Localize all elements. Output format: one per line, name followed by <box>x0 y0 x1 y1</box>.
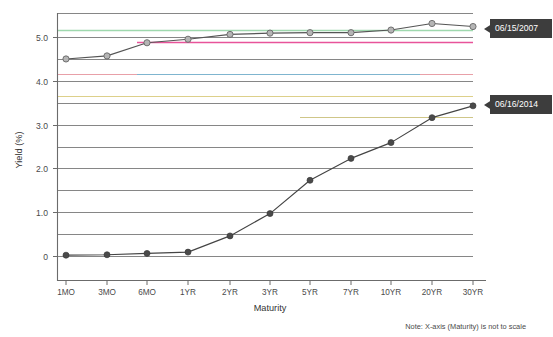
data-point-5YR[interactable] <box>307 30 313 36</box>
x-tick-label-3MO: 3MO <box>98 288 116 297</box>
yield-curve-chart: 5.0 4.0 3.0 2.0 1.0 0 Yield (%) 1MO 3MO … <box>0 0 553 337</box>
data-point-30YR[interactable] <box>470 103 476 109</box>
x-tick-label-1MO: 1MO <box>57 288 75 297</box>
data-point-1YR[interactable] <box>185 249 191 255</box>
chart-canvas: 5.0 4.0 3.0 2.0 1.0 0 Yield (%) 1MO 3MO … <box>0 0 553 337</box>
data-point-3YR[interactable] <box>267 30 273 36</box>
callout-label-2014: 06/16/2014 <box>495 99 538 109</box>
data-point-1MO[interactable] <box>63 56 69 62</box>
x-axis-tick-labels: 1MO 3MO 6MO 1YR 2YR 3YR 5YR 7YR 10YR 20Y… <box>57 288 483 297</box>
data-point-5YR[interactable] <box>307 177 313 183</box>
y-tick-label-0: 0 <box>43 252 48 262</box>
data-point-20YR[interactable] <box>429 115 435 121</box>
y-tick-label-3.0: 3.0 <box>36 121 48 131</box>
data-point-3MO[interactable] <box>104 252 110 258</box>
y-tick-label-5.0: 5.0 <box>36 33 48 43</box>
series-callout-2007[interactable]: 06/15/2007 <box>484 19 552 38</box>
series-callout-2014[interactable]: 06/16/2014 <box>484 95 552 114</box>
data-point-20YR[interactable] <box>429 20 435 26</box>
callout-arrow-2014-icon <box>484 101 491 110</box>
y-axis-title: Yield (%) <box>14 132 24 169</box>
y-tick-marks <box>53 38 57 257</box>
data-point-6MO[interactable] <box>144 250 150 256</box>
data-point-1YR[interactable] <box>185 36 191 42</box>
y-tick-label-1.0: 1.0 <box>36 208 48 218</box>
callout-label-2007: 06/15/2007 <box>495 23 538 33</box>
data-point-1MO[interactable] <box>63 252 69 258</box>
x-tick-label-3YR: 3YR <box>262 288 278 297</box>
x-tick-label-20YR: 20YR <box>422 288 443 297</box>
data-point-7YR[interactable] <box>348 155 354 161</box>
y-tick-label-2.0: 2.0 <box>36 164 48 174</box>
x-axis-title: Maturity <box>254 303 287 313</box>
data-point-6MO[interactable] <box>144 40 150 46</box>
data-point-2YR[interactable] <box>227 233 233 239</box>
data-point-3YR[interactable] <box>267 211 273 217</box>
x-tick-label-1YR: 1YR <box>180 288 196 297</box>
x-tick-label-7YR: 7YR <box>343 288 359 297</box>
y-tick-label-4.0: 4.0 <box>36 77 48 87</box>
data-point-2YR[interactable] <box>227 31 233 37</box>
data-point-3MO[interactable] <box>104 53 110 59</box>
data-point-10YR[interactable] <box>388 140 394 146</box>
x-tick-label-30YR: 30YR <box>463 288 484 297</box>
x-tick-label-6MO: 6MO <box>138 288 156 297</box>
plot-area-background <box>57 13 473 256</box>
x-tick-label-10YR: 10YR <box>381 288 402 297</box>
data-point-7YR[interactable] <box>348 30 354 36</box>
y-axis-tick-labels: 5.0 4.0 3.0 2.0 1.0 0 <box>36 33 48 262</box>
chart-note: Note: X-axis (Maturity) is not to scale <box>405 322 526 331</box>
data-point-30YR[interactable] <box>470 23 476 29</box>
data-point-10YR[interactable] <box>388 27 394 33</box>
x-tick-label-5YR: 5YR <box>302 288 318 297</box>
x-tick-label-2YR: 2YR <box>222 288 238 297</box>
callout-arrow-2007-icon <box>484 25 491 34</box>
